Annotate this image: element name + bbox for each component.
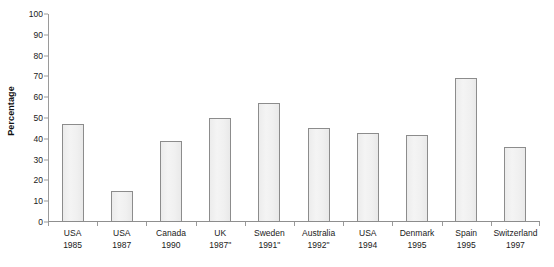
y-axis-tick-label: 80 [34, 51, 43, 60]
x-axis-category-label: USA1985 [48, 228, 97, 251]
x-axis-tick-mark [491, 222, 492, 226]
bar[interactable] [62, 124, 84, 222]
y-axis-title-text: Percentage [6, 86, 16, 136]
x-axis-tick-mark [245, 222, 246, 226]
y-axis-tick-labels: 1009080706050403020100 [20, 0, 48, 222]
bar[interactable] [455, 78, 477, 222]
y-axis-tick-label: 100 [29, 10, 43, 19]
x-axis-country-label: USA [48, 228, 97, 240]
y-axis-tick-label: 50 [34, 114, 43, 123]
bar[interactable] [406, 135, 428, 222]
x-axis-category-label: USA1994 [343, 228, 392, 251]
bars-layer [48, 14, 540, 222]
x-axis-country-label: Sweden [245, 228, 294, 240]
bar-slot [294, 14, 343, 222]
x-axis-year-label: 1995 [392, 240, 441, 252]
x-axis-tick-mark [294, 222, 295, 226]
x-axis-tick-mark [539, 222, 540, 226]
x-axis-year-label: 1987 [97, 240, 146, 252]
bar[interactable] [308, 128, 330, 222]
y-axis-tick-label: 90 [34, 31, 43, 40]
bar-slot [245, 14, 294, 222]
x-axis-footnote-mark: " [277, 240, 280, 250]
x-axis-country-label: Canada [146, 228, 195, 240]
bar-slot [196, 14, 245, 222]
x-axis-tick-mark [48, 222, 49, 226]
bar[interactable] [258, 103, 280, 222]
x-axis-category-label: Sweden1991" [245, 228, 294, 251]
bar[interactable] [111, 191, 133, 222]
y-axis-title: Percentage [0, 0, 22, 222]
x-axis-country-label: Spain [442, 228, 491, 240]
plot-area [48, 14, 540, 222]
x-axis-country-label: UK [196, 228, 245, 240]
x-axis-year-label: 1995 [442, 240, 491, 252]
y-axis-tick-label: 10 [34, 197, 43, 206]
bar-slot [442, 14, 491, 222]
x-axis-year-label: 1994 [343, 240, 392, 252]
x-axis-category-label: Switzerland1997 [491, 228, 540, 251]
x-axis-country-label: Denmark [392, 228, 441, 240]
x-axis-tick-mark [97, 222, 98, 226]
x-axis-category-label: USA1987 [97, 228, 146, 251]
bar[interactable] [160, 141, 182, 222]
bar-slot [146, 14, 195, 222]
x-axis-category-label: Denmark1995 [392, 228, 441, 251]
bar-slot [97, 14, 146, 222]
y-axis-tick-label: 40 [34, 135, 43, 144]
x-axis-year-label: 1997 [491, 240, 540, 252]
bar-slot [48, 14, 97, 222]
x-axis-category-label: Canada1990 [146, 228, 195, 251]
x-axis-category-label: Australia1992" [294, 228, 343, 251]
x-axis-country-label: USA [97, 228, 146, 240]
bar-slot [491, 14, 540, 222]
bar-slot [392, 14, 441, 222]
x-axis-country-label: USA [343, 228, 392, 240]
x-axis-category-label: UK1987" [196, 228, 245, 251]
x-axis-year-label: 1987" [196, 240, 245, 252]
x-axis-tick-mark [196, 222, 197, 226]
bar[interactable] [504, 147, 526, 222]
y-axis-tick-label: 20 [34, 176, 43, 185]
x-axis-footnote-mark: " [228, 240, 231, 250]
x-axis-footnote-mark: " [327, 240, 330, 250]
x-axis-tick-mark [146, 222, 147, 226]
bar[interactable] [357, 133, 379, 222]
x-axis-tick-mark [343, 222, 344, 226]
bar-slot [343, 14, 392, 222]
x-axis-category-label: Spain1995 [442, 228, 491, 251]
y-axis-tick-label: 60 [34, 93, 43, 102]
x-axis-tick-mark [392, 222, 393, 226]
bar[interactable] [209, 118, 231, 222]
y-axis-tick-label: 70 [34, 72, 43, 81]
x-axis-country-label: Australia [294, 228, 343, 240]
x-axis-country-label: Switzerland [491, 228, 540, 240]
x-axis-year-label: 1985 [48, 240, 97, 252]
y-axis-tick-label: 30 [34, 155, 43, 164]
x-axis-tick-mark [442, 222, 443, 226]
x-axis-category-labels: USA1985USA1987Canada1990UK1987"Sweden199… [48, 228, 540, 262]
x-axis-ticks [48, 222, 540, 227]
x-axis-year-label: 1991" [245, 240, 294, 252]
x-axis-year-label: 1990 [146, 240, 195, 252]
y-axis-tick-label: 0 [38, 218, 43, 227]
x-axis-year-label: 1992" [294, 240, 343, 252]
bar-chart: Percentage 1009080706050403020100 USA198… [0, 0, 554, 267]
